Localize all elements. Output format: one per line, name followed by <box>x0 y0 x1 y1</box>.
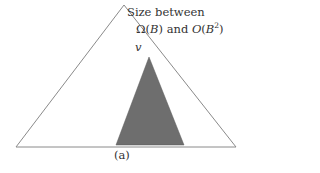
vertex-label-v: v <box>135 42 142 54</box>
omega-symbol: Ω( <box>136 22 150 36</box>
figure-caption: (a) <box>114 150 130 162</box>
size-annotation-line1: Size between <box>127 7 205 19</box>
size-annotation-line2: Ω(B) and O(B2) <box>136 24 224 36</box>
and-text: and <box>163 22 192 36</box>
big-o-symbol: O <box>192 22 201 36</box>
big-o-close: ) <box>219 22 224 36</box>
